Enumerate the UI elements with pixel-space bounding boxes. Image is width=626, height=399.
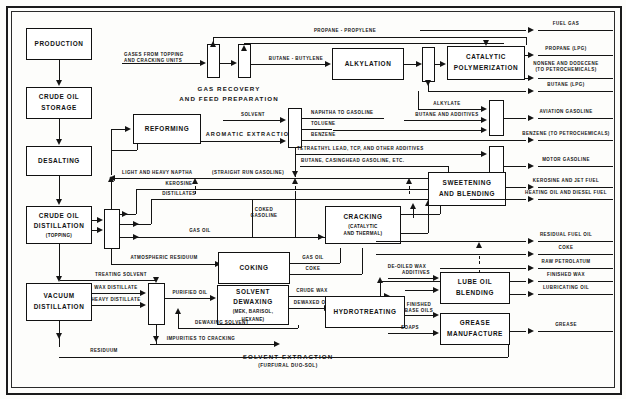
flow-residual-fuel-oil xyxy=(376,241,526,242)
arrow-purified-oil xyxy=(210,295,216,301)
product-line-kerosine-jet-fuel xyxy=(538,187,613,188)
unit-sweetening-line2: AND BLENDING xyxy=(439,189,495,200)
flow-butane-casinghead xyxy=(300,166,448,167)
unit-crude-distillation-line1: CRUDE OIL xyxy=(39,211,80,222)
unit-hydrotreating: HYDROTREATING xyxy=(325,296,405,328)
flow-additives xyxy=(388,278,434,279)
tower-gas-recovery-1 xyxy=(207,44,220,78)
flow-to-fuel-gas xyxy=(420,30,526,31)
unit-grease-line1: GREASE xyxy=(460,318,491,329)
tower-aviation-gasoline-blender xyxy=(489,100,504,136)
unit-cracking-line3: AND THERMAL) xyxy=(344,230,383,238)
flow-distillation-to-vacuum xyxy=(59,244,60,276)
label-straight-run-gasoline: (STRAIGHT RUN GASOLINE) xyxy=(212,170,284,176)
product-line-coke xyxy=(538,254,613,255)
unit-catpoly-line2: POLYMERIZATION xyxy=(454,63,519,74)
arrow-into-hydrotreating-top xyxy=(377,277,383,283)
unit-grease-line2: MANUFACTURE xyxy=(447,329,503,340)
unit-crude-distillation-line2: DISTILLATION xyxy=(34,221,85,232)
arrow-butane-lpg xyxy=(528,88,534,94)
gas-recovery-title-line1: GAS RECOVERY xyxy=(198,85,261,92)
arrow-solvent xyxy=(280,117,286,123)
flow-base-oils-to-grease xyxy=(405,315,434,316)
arrow-heating-diesel xyxy=(528,196,534,202)
label-naphtha-to-gasoline: NAPHTHA TO GASOLINE xyxy=(311,110,374,116)
flow-into-hydrotreating-top xyxy=(380,281,381,296)
label-kerosine-jet-fuel: KEROSINE AND JET FUEL xyxy=(533,178,599,184)
arrow-fractionator-overhead xyxy=(108,176,114,182)
arrow-srg-joint-c xyxy=(406,178,412,184)
unit-crude-oil-storage-line2: STORAGE xyxy=(41,103,77,114)
tower-solvent-treating xyxy=(148,283,165,325)
unit-desalting-label: DESALTING xyxy=(38,156,80,167)
flow-kerosine-drop xyxy=(136,189,137,208)
unit-crude-oil-storage: CRUDE OIL STORAGE xyxy=(26,87,92,119)
flow-coke-up-to-residual xyxy=(362,248,363,258)
arrow-into-catpoly xyxy=(483,40,489,46)
label-motor-gasoline: MOTOR GASOLINE xyxy=(542,157,590,163)
arrow-nonene-dodecene xyxy=(528,75,534,81)
product-line-heating-diesel xyxy=(538,199,613,200)
arrow-recycle-into-tower2 xyxy=(241,45,247,51)
unit-production: PRODUCTION xyxy=(26,28,92,60)
label-grease: GREASE xyxy=(555,322,577,328)
product-line-raw-petrolatum xyxy=(538,268,613,269)
label-benzene-petro: BENZENE (TO PETROCHEMICALS) xyxy=(522,131,610,137)
product-line-aviation-gasoline xyxy=(538,118,613,119)
arrow-wax-distillate xyxy=(140,290,146,296)
flow-coked-gasoline-riser xyxy=(295,194,296,237)
label-heating-diesel: HEATING OIL AND DIESEL FUEL xyxy=(525,190,607,196)
unit-alkylation: ALKYLATION xyxy=(332,48,404,80)
arrow-alkylate xyxy=(481,106,487,112)
unit-dewaxing-line3: (MEK, BARISOL, xyxy=(233,308,273,316)
label-wax-distillate: WAX DISTILLATE xyxy=(94,285,137,291)
flow-propane-propylene xyxy=(213,37,526,38)
arrow-gases-to-recovery xyxy=(200,60,206,66)
arrow-desalting-to-distillation xyxy=(56,199,62,205)
label-gas-oil-2: GAS OIL xyxy=(302,255,324,261)
label-butane-and-additives: BUTANE AND ADDITIVES xyxy=(415,112,478,118)
arrow-base-oils-to-lube xyxy=(433,287,439,293)
arrow-propane-into-tower1 xyxy=(210,41,216,47)
label-butane-lpg: BUTANE (LPG) xyxy=(547,82,584,88)
unit-catalytic-polymerization: CATALYTIC POLYMERIZATION xyxy=(447,46,525,80)
flow-solvent-to-extraction xyxy=(223,120,281,121)
unit-alkylation-label: ALKYLATION xyxy=(345,59,392,70)
product-line-grease xyxy=(538,331,613,332)
arrow-fractionator-side-2 xyxy=(133,221,139,227)
label-finished-base-oils: FINISHED BASE OILS xyxy=(405,302,433,314)
flow-dewaxing-solvent xyxy=(178,328,298,329)
label-coke-product: COKE xyxy=(559,245,574,251)
flow-raw-petrolatum xyxy=(440,268,526,269)
arrow-srg-joint-a xyxy=(192,178,198,184)
unit-reforming: REFORMING xyxy=(133,114,201,144)
arrow-grease xyxy=(528,328,534,334)
unit-hydrotreating-label: HYDROTREATING xyxy=(333,307,396,318)
unit-coking-label: COKING xyxy=(239,263,268,274)
label-soaps: SOAPS xyxy=(401,325,419,331)
label-alkylate: ALKYLATE xyxy=(433,101,460,107)
flow-atmospheric-residuum xyxy=(111,264,216,265)
flow-naphtha-to-avgas xyxy=(333,130,482,131)
flow-base-oils-to-lube xyxy=(405,290,434,291)
flow-dewaxing-solvent-riser-left xyxy=(178,312,179,328)
arrow-heavy-distillate xyxy=(140,302,146,308)
unit-dewaxing-line1: SOLVENT xyxy=(236,287,270,298)
flow-desalting-to-distillation xyxy=(59,176,60,199)
unit-vacuum-distillation-line2: DISTILLATION xyxy=(34,302,85,313)
unit-vacuum-distillation: VACUUM DISTILLATION xyxy=(26,283,92,321)
flow-coking-gas-oil-riser xyxy=(340,248,341,263)
arrow-coke-product xyxy=(528,251,534,257)
flow-butane-additives xyxy=(404,120,482,121)
arrow-srg-joint-b xyxy=(292,178,298,184)
flow-naphtha-riser-to-reforming xyxy=(111,129,112,175)
flow-dewaxing-solvent-riser-right xyxy=(298,325,299,328)
flow-storage-to-desalting xyxy=(59,119,60,139)
arrow-butane-butylene xyxy=(325,61,331,67)
flow-heating-diesel-out xyxy=(470,199,526,200)
label-benzene: BENZENE xyxy=(311,132,336,138)
flow-to-butane-lpg xyxy=(428,91,526,92)
label-butane-butylene: BUTANE - BUTYLENE xyxy=(269,56,323,62)
arrow-crude-to-fractionator-2 xyxy=(97,227,103,233)
unit-dewaxing-line2: DEWAXING xyxy=(233,297,273,308)
